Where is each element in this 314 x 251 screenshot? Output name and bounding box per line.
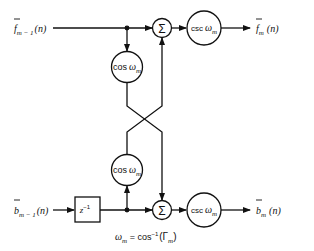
backward-output-label: bm(n) xyxy=(256,205,281,219)
csc-bottom-label: cscωm xyxy=(191,204,217,218)
omega-equation: ωm = cos−1(Γm) xyxy=(115,231,176,245)
csc-top-label: cscωm xyxy=(191,22,217,36)
cos-bottom-label: cosωm xyxy=(113,164,141,178)
cos-top-label: cosωm xyxy=(113,61,141,75)
forward-output-label: fm(n) xyxy=(256,23,279,37)
forward-input-label: fm − 1(n) xyxy=(14,23,47,37)
sum-symbol-top: Σ xyxy=(158,22,165,36)
backward-input-label: bm − 1(n) xyxy=(14,205,49,219)
cross-down-path xyxy=(127,83,162,200)
cross-up-path xyxy=(127,38,162,154)
sum-symbol-bottom: Σ xyxy=(158,204,165,218)
lattice-diagram: Σ Σ cosωm cosωm cscωm cscωm z−1 fm − 1(n… xyxy=(0,0,314,251)
delay-label: z−1 xyxy=(79,204,91,215)
